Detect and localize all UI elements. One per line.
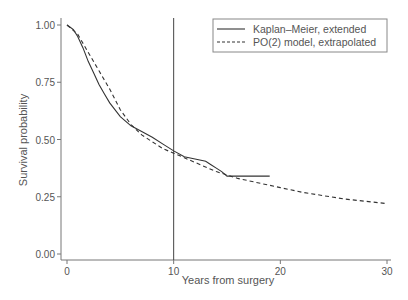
y-tick-label: 0.00 — [36, 249, 56, 260]
x-tick-label: 10 — [168, 266, 180, 277]
y-axis-label: Survival probability — [17, 93, 29, 186]
y-tick-label: 0.25 — [36, 192, 56, 203]
x-tick-label: 0 — [64, 266, 70, 277]
axes: 0.000.250.500.751.000102030 — [36, 18, 393, 277]
x-axis-label: Years from surgery — [182, 274, 275, 286]
x-tick-label: 20 — [275, 266, 287, 277]
survival-chart: 0.000.250.500.751.000102030 Kaplan–Meier… — [0, 0, 408, 300]
legend-label: PO(2) model, extrapolated — [253, 36, 376, 48]
y-tick-label: 0.50 — [36, 135, 56, 146]
legend-label: Kaplan–Meier, extended — [253, 23, 366, 35]
x-tick-label: 30 — [381, 266, 393, 277]
legend: Kaplan–Meier, extendedPO(2) model, extra… — [213, 19, 387, 52]
y-tick-label: 0.75 — [36, 77, 56, 88]
y-tick-label: 1.00 — [36, 20, 56, 31]
